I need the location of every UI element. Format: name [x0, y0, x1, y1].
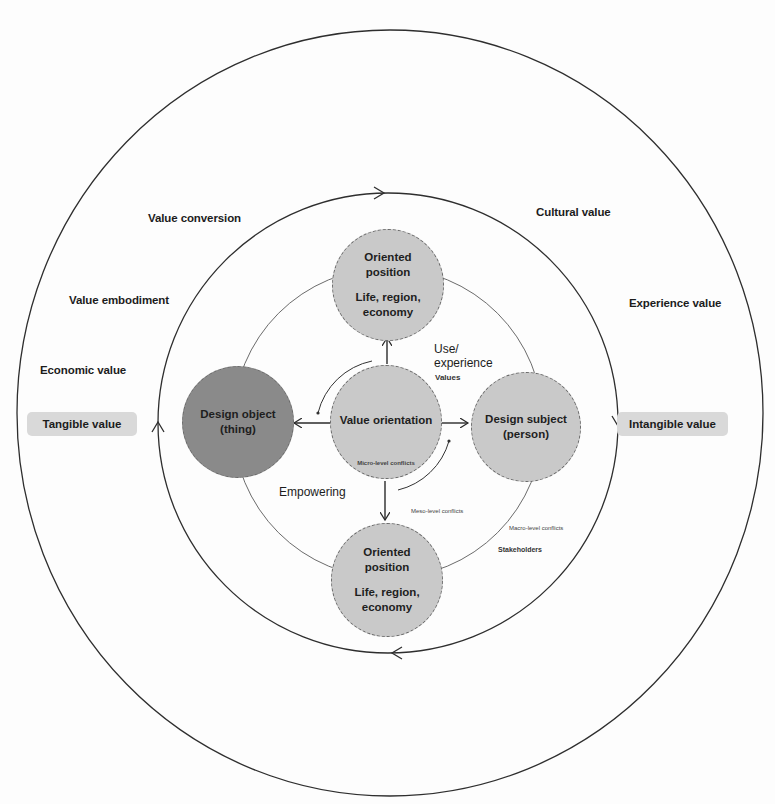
node-bottom-sub-2: economy: [362, 600, 413, 615]
label-economic-value: Economic value: [40, 364, 126, 376]
label-meso-conflicts: Meso-level conflicts: [411, 508, 463, 514]
node-design-object: Design object (thing): [182, 366, 294, 478]
label-experience-value: Experience value: [629, 297, 721, 309]
node-left-line2: (thing): [220, 422, 256, 437]
label-use-line2: experience: [434, 356, 493, 370]
label-use-line1: Use/: [434, 342, 459, 356]
node-bottom-sub-1: Life, region,: [354, 585, 419, 600]
label-empowering: Empowering: [279, 485, 346, 499]
label-value-embodiment: Value embodiment: [69, 294, 169, 306]
node-bottom-title-2: position: [365, 560, 410, 575]
node-top-title-1: Oriented: [364, 250, 411, 265]
node-design-subject: Design subject (person): [471, 372, 581, 482]
node-top-sub-1: Life, region,: [355, 290, 420, 305]
value-diagram: Value conversion Value embodiment Econom…: [0, 0, 775, 804]
label-macro-conflicts: Macro-level conflicts: [509, 525, 563, 531]
node-oriented-position-top: Oriented position Life, region, economy: [332, 229, 444, 341]
label-value-conversion: Value conversion: [148, 212, 241, 224]
node-right-line2: (person): [503, 427, 549, 442]
label-stakeholders: Stakeholders: [498, 546, 542, 553]
node-oriented-position-bottom: Oriented position Life, region, economy: [331, 523, 443, 637]
label-values: Values: [435, 373, 460, 382]
node-right-line1: Design subject: [485, 412, 567, 427]
node-top-title-2: position: [366, 265, 411, 280]
node-center-note: Micro-level conflicts: [331, 460, 441, 466]
label-cultural-value: Cultural value: [536, 206, 611, 218]
node-left-line1: Design object: [200, 407, 275, 422]
pill-intangible-value: Intangible value: [617, 412, 728, 436]
node-value-orientation: Value orientation Micro-level conflicts: [330, 365, 442, 479]
pill-tangible-value: Tangible value: [27, 412, 137, 436]
node-bottom-title-1: Oriented: [363, 545, 410, 560]
node-top-sub-2: economy: [363, 305, 414, 320]
node-center-title: Value orientation: [340, 413, 433, 428]
